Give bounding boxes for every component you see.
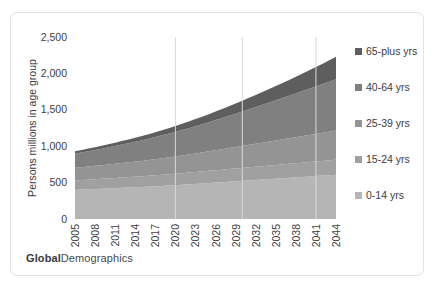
x-axis-tick-label: 2029 <box>230 224 242 248</box>
legend-label: 15-24 yrs <box>366 153 410 165</box>
x-axis-tick-label: 2035 <box>270 224 282 248</box>
stacked-area-chart: 05001,0001,5002,0002,5002005200820112014… <box>0 0 437 293</box>
y-axis-tick-label: 1,000 <box>41 140 67 152</box>
x-axis-tick-label: 2026 <box>210 224 222 248</box>
chart-plot-area: 05001,0001,5002,0002,5002005200820112014… <box>0 0 437 293</box>
y-axis-title: Persons millions in age group <box>26 59 38 197</box>
x-axis-tick-label: 2005 <box>69 224 81 248</box>
y-axis-tick-label: 2,500 <box>41 31 67 43</box>
brand-watermark: GlobalDemographics <box>26 252 133 264</box>
legend-swatch <box>355 120 362 127</box>
y-axis-tick-label: 1,500 <box>41 103 67 115</box>
legend-swatch <box>355 156 362 163</box>
brand-regular: Demographics <box>61 252 133 264</box>
legend-label: 0-14 yrs <box>366 189 404 201</box>
legend-label: 40-64 yrs <box>366 81 410 93</box>
y-axis-tick-label: 2,000 <box>41 67 67 79</box>
legend-label: 65-plus yrs <box>366 45 417 57</box>
legend-swatch <box>355 84 362 91</box>
legend-swatch <box>355 48 362 55</box>
x-axis-tick-label: 2008 <box>89 224 101 248</box>
x-axis-tick-label: 2023 <box>189 224 201 248</box>
x-axis-tick-label: 2041 <box>310 224 322 248</box>
x-axis-tick-label: 2044 <box>330 224 342 248</box>
x-axis-tick-label: 2038 <box>290 224 302 248</box>
y-axis-tick-label: 500 <box>49 176 67 188</box>
chart-screenshot: 05001,0001,5002,0002,5002005200820112014… <box>0 0 437 293</box>
x-axis-tick-label: 2020 <box>169 224 181 248</box>
x-axis-tick-label: 2017 <box>149 224 161 248</box>
x-axis-tick-label: 2032 <box>250 224 262 248</box>
brand-bold: Global <box>26 252 61 264</box>
legend-label: 25-39 yrs <box>366 117 410 129</box>
x-axis-tick-label: 2011 <box>109 224 121 247</box>
x-axis-tick-label: 2014 <box>129 224 141 248</box>
y-axis-tick-label: 0 <box>61 213 67 225</box>
legend-swatch <box>355 192 362 199</box>
